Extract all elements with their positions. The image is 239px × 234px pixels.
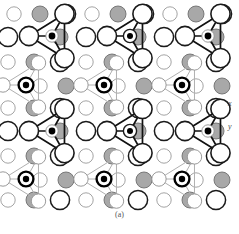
adatom-core-dot bbox=[179, 82, 185, 88]
dark-cluster-corner-atom bbox=[133, 4, 152, 23]
substrate-atom-open-small bbox=[1, 101, 15, 115]
substrate-atom-gray bbox=[214, 78, 230, 94]
substrate-atom-open-large bbox=[76, 121, 95, 140]
light-cluster-corner-atom bbox=[187, 100, 201, 114]
substrate-atom-gray bbox=[58, 172, 74, 188]
substrate-atom-open-small bbox=[111, 173, 125, 187]
substrate-atom-open-small bbox=[189, 173, 203, 187]
substrate-atom-open-small bbox=[7, 7, 21, 21]
adatom-core-dot bbox=[205, 33, 212, 40]
adatom-core-dot bbox=[127, 33, 133, 39]
light-cluster-corner-atom bbox=[109, 56, 123, 70]
substrate-atom-open-large bbox=[154, 27, 173, 46]
substrate-atom-gray bbox=[136, 78, 152, 94]
substrate-atom-open-large bbox=[206, 190, 225, 209]
dark-cluster-corner-atom bbox=[211, 4, 230, 23]
substrate-atom-open-small bbox=[85, 7, 99, 21]
light-cluster-corner-atom bbox=[74, 172, 88, 186]
substrate-atom-open-small bbox=[79, 101, 93, 115]
substrate-atom-open-small bbox=[33, 173, 47, 187]
substrate-atom-gray bbox=[110, 6, 126, 22]
light-cluster-corner-atom bbox=[152, 78, 166, 92]
dark-cluster-corner-atom bbox=[55, 143, 74, 162]
surface-structure-figure: x y (a) bbox=[0, 0, 239, 234]
dark-cluster-corner-atom bbox=[97, 26, 116, 45]
adatom-core-dot bbox=[179, 176, 185, 182]
light-cluster-corner-atom bbox=[187, 150, 201, 164]
substrate-atom-open-large bbox=[0, 27, 18, 46]
light-cluster-corner-atom bbox=[109, 150, 123, 164]
light-cluster-corner-atom bbox=[187, 194, 201, 208]
adatom-core-dot bbox=[49, 33, 56, 40]
dark-cluster-corner-atom bbox=[133, 99, 152, 118]
dark-cluster-corner-atom bbox=[175, 121, 194, 140]
dark-cluster-corner-atom bbox=[19, 26, 38, 45]
substrate-atom-open-small bbox=[157, 55, 171, 69]
light-cluster-corner-atom bbox=[31, 150, 45, 164]
dark-cluster-corner-atom bbox=[133, 143, 152, 162]
light-cluster-corner-atom bbox=[74, 78, 88, 92]
substrate-atom-open-small bbox=[79, 149, 93, 163]
figure-caption: (a) bbox=[0, 211, 239, 219]
axis-label-y: y bbox=[228, 123, 232, 131]
substrate-atom-open-small bbox=[189, 79, 203, 93]
adatom-core-dot bbox=[205, 128, 212, 135]
substrate-atom-gray bbox=[136, 172, 152, 188]
light-cluster-corner-atom bbox=[109, 100, 123, 114]
light-cluster-corner-atom bbox=[109, 194, 123, 208]
substrate-atom-gray bbox=[188, 6, 204, 22]
dark-cluster-corner-atom bbox=[211, 143, 230, 162]
substrate-atom-open-small bbox=[1, 193, 15, 207]
substrate-atom-open-small bbox=[33, 79, 47, 93]
substrate-atom-open-large bbox=[76, 27, 95, 46]
light-cluster-corner-atom bbox=[31, 100, 45, 114]
substrate-atom-open-small bbox=[157, 193, 171, 207]
substrate-atom-open-large bbox=[128, 190, 147, 209]
dark-cluster-corner-atom bbox=[55, 48, 74, 67]
substrate-atom-gray bbox=[58, 78, 74, 94]
lattice-diagram bbox=[0, 0, 239, 234]
dark-cluster-corner-atom bbox=[133, 48, 152, 67]
light-cluster-corner-atom bbox=[0, 78, 10, 92]
dark-cluster-corner-atom bbox=[55, 4, 74, 23]
substrate-atom-open-small bbox=[1, 149, 15, 163]
adatom-core-dot bbox=[127, 128, 133, 134]
adatom-core-dot bbox=[23, 176, 29, 182]
adatom-core-dot bbox=[49, 128, 56, 135]
light-cluster-corner-atom bbox=[187, 56, 201, 70]
substrate-atom-open-small bbox=[157, 149, 171, 163]
light-cluster-corner-atom bbox=[152, 172, 166, 186]
substrate-atom-gray bbox=[214, 172, 230, 188]
adatom-core-dot bbox=[23, 82, 29, 88]
dark-cluster-corner-atom bbox=[55, 99, 74, 118]
substrate-atom-open-small bbox=[1, 55, 15, 69]
substrate-atom-open-small bbox=[157, 101, 171, 115]
light-cluster-corner-atom bbox=[31, 194, 45, 208]
substrate-atom-open-small bbox=[79, 55, 93, 69]
dark-cluster-corner-atom bbox=[211, 48, 230, 67]
substrate-atom-open-small bbox=[163, 7, 177, 21]
axis-label-x: x bbox=[228, 100, 232, 108]
light-cluster-corner-atom bbox=[31, 56, 45, 70]
substrate-atom-open-small bbox=[79, 193, 93, 207]
adatom-core-dot bbox=[101, 82, 107, 88]
light-cluster-corner-atom bbox=[0, 172, 10, 186]
substrate-atom-gray bbox=[32, 6, 48, 22]
dark-cluster-corner-atom bbox=[175, 26, 194, 45]
substrate-atom-open-large bbox=[154, 121, 173, 140]
substrate-atom-open-small bbox=[111, 79, 125, 93]
substrate-atom-open-large bbox=[50, 190, 69, 209]
substrate-atom-open-large bbox=[0, 121, 18, 140]
adatom-core-dot bbox=[101, 176, 107, 182]
dark-cluster-corner-atom bbox=[97, 121, 116, 140]
dark-cluster-corner-atom bbox=[19, 121, 38, 140]
